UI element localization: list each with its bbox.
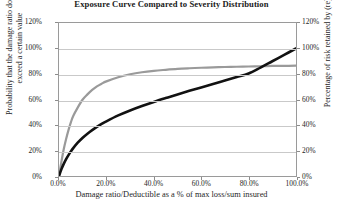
series-line-exposure-curve (59, 48, 296, 176)
y-tick-mark-right (297, 22, 300, 23)
y-tick-right-40%: 40% (302, 121, 342, 128)
y-tick-mark-right (297, 74, 300, 75)
x-tick-mark (58, 177, 59, 180)
y-tick-right-80%: 80% (302, 70, 342, 77)
x-tick-mark (106, 177, 107, 180)
x-tick-mark (201, 177, 202, 180)
y-tick-mark-left (55, 74, 58, 75)
y-tick-left-120%: 120% (2, 18, 42, 25)
x-tick-mark (249, 177, 250, 180)
x-tick-mark (297, 177, 298, 180)
x-tick-0.0%: 0.0% (35, 180, 81, 187)
y-tick-left-80%: 80% (2, 70, 42, 77)
y-tick-left-40%: 40% (2, 121, 42, 128)
y-tick-mark-right (297, 48, 300, 49)
y-tick-right-20%: 20% (302, 147, 342, 154)
x-axis-title: Damage ratio/Deductible as a % of max lo… (0, 190, 343, 199)
y-tick-mark-right (297, 125, 300, 126)
y-tick-right-120%: 120% (302, 18, 342, 25)
gridline-y-80% (59, 75, 296, 76)
y-tick-left-100%: 100% (2, 44, 42, 51)
x-tick-20.0%: 20.0% (83, 180, 129, 187)
x-tick-100.0%: 100.0% (274, 180, 320, 187)
x-tick-60.0%: 60.0% (178, 180, 224, 187)
chart-title: Exposure Curve Compared to Severity Dist… (0, 0, 343, 9)
y-tick-right-60%: 60% (302, 96, 342, 103)
y-tick-mark-left (55, 22, 58, 23)
gridline-y-60% (59, 101, 296, 102)
y-tick-left-60%: 60% (2, 96, 42, 103)
gridline-y-40% (59, 126, 296, 127)
gridline-y-20% (59, 152, 296, 153)
y-tick-mark-left (55, 100, 58, 101)
y-tick-mark-left (55, 48, 58, 49)
gridline-y-100% (59, 49, 296, 50)
x-tick-40.0%: 40.0% (131, 180, 177, 187)
y-tick-left-20%: 20% (2, 147, 42, 154)
chart-figure: Exposure Curve Compared to Severity Dist… (0, 0, 343, 206)
y-tick-mark-right (297, 151, 300, 152)
x-tick-80.0%: 80.0% (226, 180, 272, 187)
y-tick-right-100%: 100% (302, 44, 342, 51)
plot-area (58, 22, 297, 177)
y-tick-mark-left (55, 151, 58, 152)
y-tick-mark-right (297, 100, 300, 101)
x-tick-mark (154, 177, 155, 180)
series-line-severity-distribution (59, 66, 296, 176)
y-tick-mark-left (55, 125, 58, 126)
